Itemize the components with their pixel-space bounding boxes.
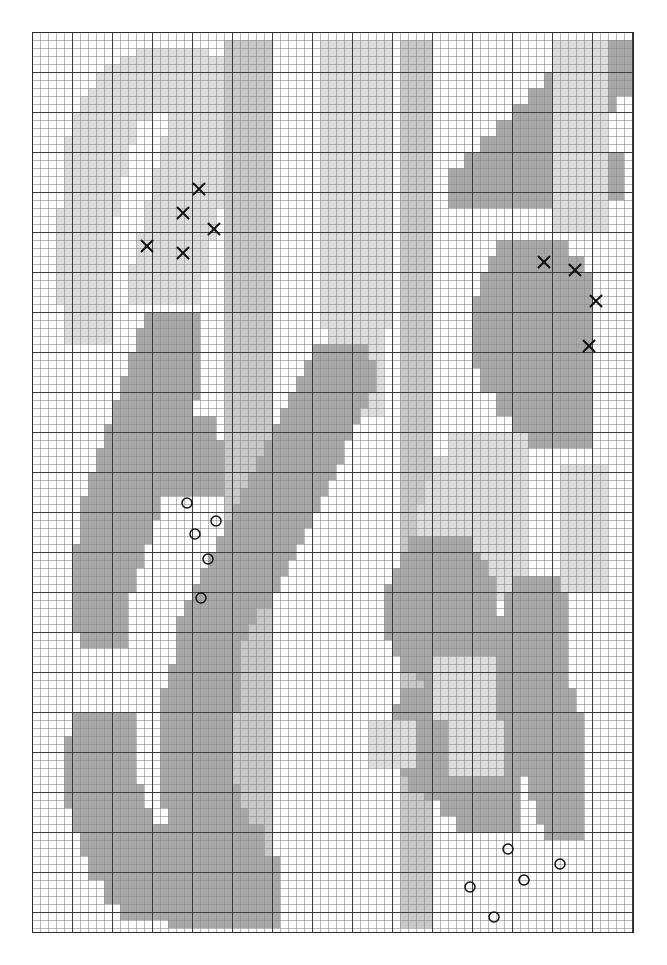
circle-marker[interactable] (555, 859, 565, 869)
shaded-cell-block (320, 40, 392, 328)
circle-marker[interactable] (190, 529, 200, 539)
circle-marker[interactable] (465, 882, 475, 892)
shaded-cell-block (128, 264, 200, 304)
shaded-cell-block (136, 464, 224, 496)
circle-marker[interactable] (182, 498, 192, 508)
shaded-cell-block (176, 616, 240, 656)
shaded-cell-block (544, 808, 584, 840)
plot-root (0, 0, 667, 965)
circle-marker[interactable] (211, 516, 221, 526)
grid-plot-canvas[interactable] (0, 0, 667, 965)
shaded-cell-block (528, 408, 592, 448)
shaded-regions-layer (56, 40, 632, 928)
shaded-cell-block (432, 656, 496, 720)
